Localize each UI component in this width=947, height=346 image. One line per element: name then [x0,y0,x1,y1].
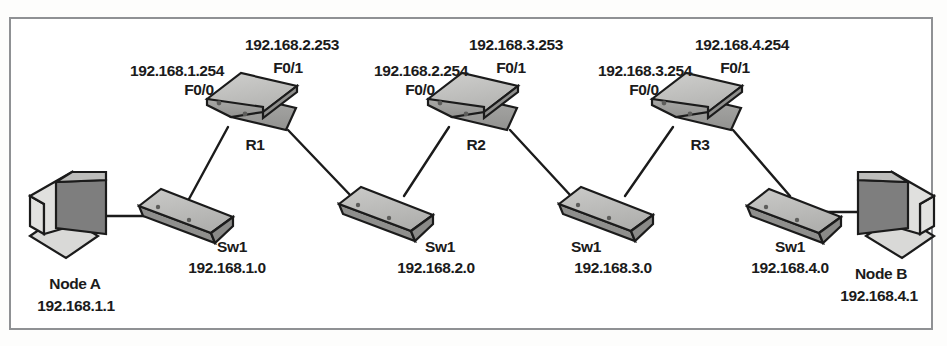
link-sw1-r1 [189,127,228,199]
sw1-4-subnet-label: 192.168.4.0 [751,259,828,277]
r1-right-ip-label: 192.168.2.253 [245,36,339,54]
diagram-canvas: 192.168.1.254 F0/0 192.168.2.253 F0/1 R1… [0,0,947,346]
switch-sw1-2[interactable] [339,187,433,241]
r3-name-label: R3 [690,136,709,154]
link-sw2-r2 [404,127,449,196]
sw1-2-name-label: Sw1 [425,238,455,256]
r1-left-iface-label: F0/0 [184,81,213,99]
switch-sw1-3[interactable] [559,187,653,241]
router-R2[interactable] [428,73,518,130]
r3-right-iface-label: F0/1 [720,59,749,77]
sw1-3-name-label: Sw1 [571,238,601,256]
r1-left-ip-label: 192.168.1.254 [130,62,224,80]
r2-right-iface-label: F0/1 [496,59,525,77]
r1-right-iface-label: F0/1 [273,59,302,77]
sw1-4-name-label: Sw1 [775,238,805,256]
r3-right-ip-label: 192.168.4.254 [695,36,789,54]
sw1-3-subnet-label: 192.168.3.0 [574,259,651,277]
r2-left-iface-label: F0/0 [405,81,434,99]
link-r3-sw4 [733,130,790,196]
link-r1-sw2 [288,130,352,197]
node-B-ip-label: 192.168.4.1 [840,287,917,305]
sw1-1-name-label: Sw1 [217,238,247,256]
node-B-name-label: Node B [855,265,907,283]
router-R1[interactable] [207,73,297,130]
r2-left-ip-label: 192.168.2.254 [374,62,468,80]
node-A-ip-label: 192.168.1.1 [37,297,114,315]
link-r2-sw3 [510,130,571,196]
sw1-2-subnet-label: 192.168.2.0 [397,259,474,277]
r3-left-iface-label: F0/0 [629,81,658,99]
node-A-computer[interactable] [30,172,106,258]
link-sw3-r3 [625,127,673,196]
switch-sw1-4[interactable] [747,189,841,243]
router-R3[interactable] [652,73,742,130]
r1-name-label: R1 [245,136,264,154]
node-A-name-label: Node A [49,275,100,293]
node-B-computer[interactable] [858,172,934,258]
r2-name-label: R2 [466,136,485,154]
switch-sw1-1[interactable] [139,189,233,243]
r2-right-ip-label: 192.168.3.253 [469,36,563,54]
sw1-1-subnet-label: 192.168.1.0 [188,259,265,277]
r3-left-ip-label: 192.168.3.254 [598,62,692,80]
